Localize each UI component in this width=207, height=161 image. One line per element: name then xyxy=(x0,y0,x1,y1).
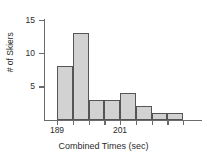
histogram-bar xyxy=(136,106,152,119)
x-tick-210 xyxy=(167,120,168,125)
histogram-bar xyxy=(167,113,183,120)
x-tick-198 xyxy=(104,120,105,125)
x-tick-207 xyxy=(152,120,153,125)
y-tick-15 xyxy=(39,20,44,21)
histogram-bar xyxy=(89,100,105,120)
y-tick-label-5: 5 xyxy=(18,82,35,91)
histogram-bar xyxy=(73,33,89,120)
histogram-chart: 15 10 5 189 201 # of Skiers Combined T xyxy=(0,0,207,161)
x-axis-line xyxy=(44,120,202,121)
x-tick-195 xyxy=(89,120,90,125)
histogram-bar xyxy=(152,113,168,120)
x-tick-192 xyxy=(73,120,74,125)
y-axis-title: # of Skiers xyxy=(6,19,15,85)
y-tick-label-15: 15 xyxy=(18,16,35,25)
y-tick-5 xyxy=(39,86,44,87)
plot-area: 15 10 5 189 201 # of Skiers Combined T xyxy=(0,0,207,161)
x-tick-204 xyxy=(136,120,137,125)
x-tick-label-201: 201 xyxy=(105,126,135,135)
y-tick-10 xyxy=(39,53,44,54)
histogram-bar xyxy=(104,100,120,120)
x-axis-title: Combined Times (sec) xyxy=(0,142,207,151)
x-tick-label-189: 189 xyxy=(42,126,72,135)
histogram-bar xyxy=(57,66,73,119)
y-axis-line xyxy=(44,19,45,120)
x-tick-213 xyxy=(183,120,184,125)
y-tick-label-10: 10 xyxy=(18,49,35,58)
histogram-bar xyxy=(120,93,136,120)
